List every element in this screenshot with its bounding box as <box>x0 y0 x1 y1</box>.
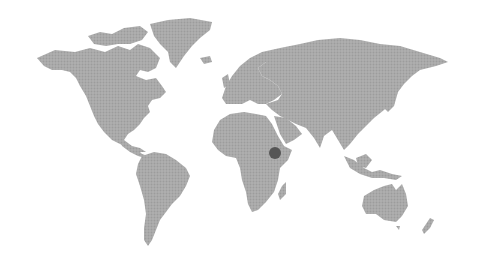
madagascar <box>278 182 286 200</box>
continent-australia <box>362 184 408 222</box>
new-zealand <box>422 218 434 234</box>
continent-south-america <box>136 152 190 246</box>
tasmania <box>396 226 400 230</box>
world-map-svg <box>0 0 483 260</box>
location-marker-ethiopia[interactable] <box>269 147 281 159</box>
world-map <box>0 0 483 260</box>
continent-north-america <box>37 44 166 152</box>
arctic-islands <box>88 26 148 46</box>
central-america <box>120 140 148 158</box>
southeast-asia-islands <box>344 156 402 180</box>
borneo <box>356 154 372 168</box>
iceland <box>200 56 212 64</box>
